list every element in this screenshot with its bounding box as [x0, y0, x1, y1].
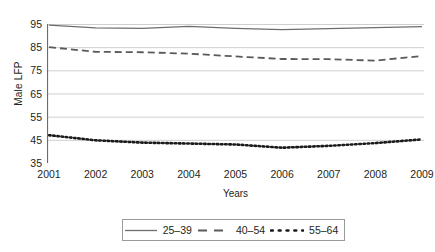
- x-axis-tick-label: 2003: [122, 168, 162, 180]
- x-axis-tick-label: 2001: [29, 168, 69, 180]
- plot-area: [47, 24, 424, 163]
- chart-figure: Male LFP 95857565554535 2001200220032004…: [0, 0, 435, 252]
- legend-swatch-dotted: [270, 225, 304, 235]
- x-axis-tick-label: 2009: [402, 168, 435, 180]
- legend-swatch-dashed: [197, 225, 231, 235]
- y-axis-tick-label: 45: [16, 135, 42, 145]
- legend-swatch-solid: [124, 225, 158, 235]
- series-line-55-64: [49, 135, 422, 148]
- y-axis-tick-labels: 95857565554535: [12, 0, 42, 252]
- y-axis-tick-label: 75: [16, 65, 42, 75]
- y-axis-tick-label: 65: [16, 89, 42, 99]
- plot-svg: [47, 24, 424, 163]
- x-axis-tick-label: 2008: [355, 168, 395, 180]
- y-axis-tick-label: 85: [16, 42, 42, 52]
- series-line-25-39: [49, 25, 422, 29]
- legend-item[interactable]: 40–54: [197, 224, 270, 236]
- series-line-40-54: [49, 47, 422, 60]
- chart-legend: 25–3940–5455–64: [122, 219, 345, 241]
- x-axis-tick-label: 2002: [76, 168, 116, 180]
- x-axis-tick-label: 2006: [262, 168, 302, 180]
- x-axis-tick-labels: 200120022003200420052006200720082009: [47, 168, 424, 184]
- legend-label: 55–64: [304, 224, 343, 236]
- y-axis-tick-label: 55: [16, 112, 42, 122]
- legend-label: 25–39: [158, 224, 197, 236]
- x-axis-tick-label: 2005: [216, 168, 256, 180]
- x-axis-tick-label: 2004: [169, 168, 209, 180]
- x-axis-tick-label: 2007: [309, 168, 349, 180]
- legend-item[interactable]: 55–64: [270, 224, 343, 236]
- legend-label: 40–54: [231, 224, 270, 236]
- y-axis-tick-label: 35: [16, 158, 42, 168]
- legend-item[interactable]: 25–39: [124, 224, 197, 236]
- y-axis-tick-label: 95: [16, 19, 42, 29]
- x-axis-label: Years: [47, 188, 424, 199]
